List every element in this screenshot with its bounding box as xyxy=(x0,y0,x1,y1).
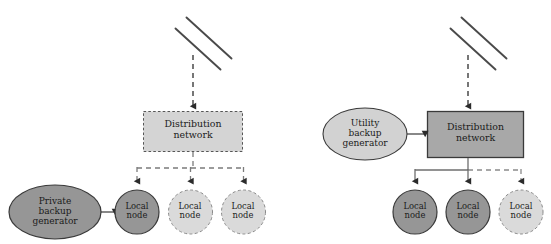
transmission-line-left xyxy=(176,18,232,70)
generator-shape-right xyxy=(323,108,407,160)
node-shape-right-3 xyxy=(499,190,543,234)
diagram-canvas: Distribution network Private backup gene… xyxy=(0,0,551,244)
transmission-line-right xyxy=(451,18,507,70)
node-shape-left-3 xyxy=(222,190,266,234)
distribution-box-left xyxy=(144,112,243,152)
node-shape-left-2 xyxy=(169,190,213,234)
node-shape-right-1 xyxy=(393,190,437,234)
right-panel-graphics xyxy=(323,18,543,235)
diagram-vector-layer xyxy=(0,0,551,244)
left-panel-graphics xyxy=(9,18,266,240)
node-shape-left-1 xyxy=(115,190,159,234)
generator-shape-left xyxy=(9,185,101,239)
node-shape-right-2 xyxy=(446,190,490,234)
distribution-box-right xyxy=(428,112,524,158)
